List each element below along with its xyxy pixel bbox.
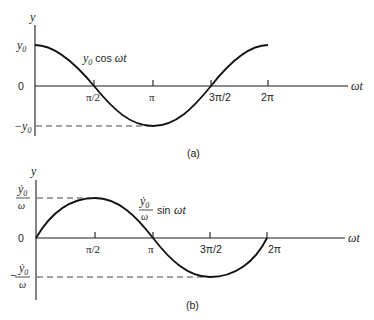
y-tick-label-a-neg-y0: −y0 [14,119,31,135]
tick-label-a-pi: π [149,91,155,103]
diagram-canvas: y ωt π/2 π 3π/2 2π y0 0 −y0 y0cosωt (a) … [0,0,374,320]
tick-label-b-pi-half: π/2 [86,243,100,255]
svg-text:ω: ω [19,279,26,290]
tick-label-a-pi-half: π/2 [86,91,100,103]
svg-text:ω: ω [141,211,148,222]
x-axis-label-a: ωt [351,79,363,93]
curve-label-b: ẏ0 ω sin ωt [139,194,186,222]
caption-a: (a) [187,147,200,159]
tick-label-b-3pi-half: 3π/2 [200,243,222,255]
caption-b: (b) [186,299,199,311]
svg-text:ẏ0: ẏ0 [18,261,28,277]
tick-label-a-2pi: 2π [261,91,274,103]
y-tick-label-b-neg: − ẏ0 ω [10,261,30,290]
y-tick-label-a-y0: y0 [16,38,26,54]
svg-text:ω: ω [18,200,25,211]
svg-text:−: − [10,269,16,281]
tick-label-b-2pi: 2π [268,243,281,255]
panel-a: y ωt π/2 π 3π/2 2π y0 0 −y0 y0cosωt (a) [14,10,363,159]
x-axis-label-b: ωt [348,231,360,245]
panel-b: y ωt π/2 π 3π/2 2π ẏ0 ω 0 − ẏ0 ω ẏ [10,164,360,311]
y-axis-label-b: y [30,164,37,178]
y-axis-label-a: y [29,10,36,24]
tick-label-b-pi: π [148,243,154,255]
y-tick-label-b-pos: ẏ0 ω [16,182,30,211]
tick-label-a-3pi-half: 3π/2 [209,91,231,103]
svg-text:sin: sin [157,204,171,216]
y-tick-label-b-zero: 0 [18,232,24,244]
svg-text:ẏ0: ẏ0 [17,182,27,198]
curve-label-a: y0cosωt [82,51,127,67]
svg-text:ẏ0: ẏ0 [139,194,149,210]
y-tick-label-a-zero: 0 [18,80,24,92]
svg-text:ωt: ωt [174,203,186,217]
